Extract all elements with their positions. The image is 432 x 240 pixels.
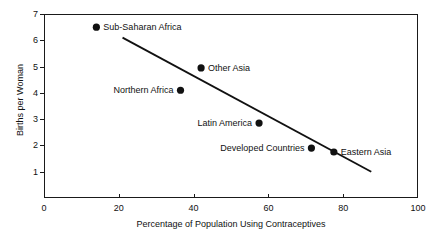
data-point-label: Latin America [198,118,253,128]
x-tick-mark [194,194,195,198]
y-tick-mark [40,67,44,68]
data-point-label: Sub-Saharan Africa [103,22,181,32]
x-tick-label: 0 [32,203,56,213]
y-tick-mark [40,93,44,94]
y-tick-mark [40,119,44,120]
x-tick-label: 40 [182,203,206,213]
x-tick-label: 100 [406,203,430,213]
x-axis-title: Percentage of Population Using Contracep… [44,219,418,229]
y-tick-label: 4 [24,88,38,98]
plot-area [44,14,418,198]
x-tick-label: 20 [107,203,131,213]
y-tick-label: 7 [24,9,38,19]
data-point-label: Eastern Asia [341,147,392,157]
x-tick-label: 60 [256,203,280,213]
data-point-label: Developed Countries [220,143,304,153]
y-tick-mark [40,14,44,15]
y-tick-label: 2 [24,140,38,150]
x-tick-label: 80 [331,203,355,213]
data-point-label: Other Asia [208,63,250,73]
y-tick-label: 6 [24,35,38,45]
y-axis-title: Births per Woman [15,30,25,170]
x-tick-mark [268,194,269,198]
scatter-chart-figure: 1234567 020406080100 Sub-Saharan AfricaO… [0,0,432,240]
y-tick-label: 3 [24,114,38,124]
y-tick-mark [40,145,44,146]
x-tick-mark [343,194,344,198]
y-tick-label: 1 [24,167,38,177]
y-tick-mark [40,172,44,173]
data-point-label: Northern Africa [113,85,173,95]
x-tick-mark [119,194,120,198]
y-tick-label: 5 [24,62,38,72]
y-tick-mark [40,40,44,41]
